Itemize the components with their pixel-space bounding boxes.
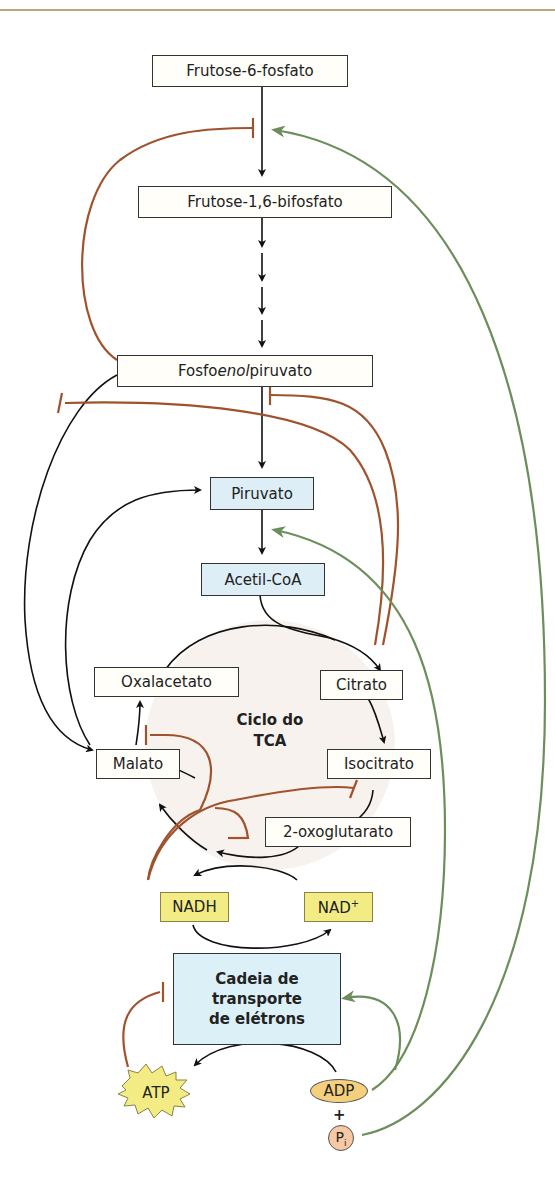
node-frutose-6-fosfato: Frutose-6-fosfato — [152, 55, 348, 87]
node-2-oxoglutarato: 2-oxoglutarato — [265, 817, 411, 847]
node-nad-plus: NAD+ — [304, 892, 373, 922]
node-malato: Malato — [96, 749, 180, 779]
node-adp: ADP — [310, 1079, 368, 1103]
node-pi: Pi — [328, 1125, 354, 1151]
node-label: Oxalacetato — [121, 673, 212, 691]
node-label: NAD+ — [318, 898, 359, 917]
node-isocitrato: Isocitrato — [327, 749, 431, 779]
node-label: Acetil-CoA — [224, 571, 301, 589]
node-atp: ATP — [128, 1078, 184, 1108]
node-cadeia-transporte-eletrons: Cadeia de transporte de elétrons — [173, 953, 341, 1045]
node-label: NADH — [172, 898, 216, 916]
node-fosfoenolpiruvato: Fosfoenolpiruvato — [117, 355, 373, 387]
node-label: Fosfoenolpiruvato — [178, 362, 312, 380]
node-label: Frutose-6-fosfato — [186, 62, 314, 80]
node-label: Malato — [113, 755, 164, 773]
node-label: Isocitrato — [344, 755, 414, 773]
node-acetil-coa: Acetil-CoA — [201, 563, 325, 596]
plus-sign: + — [333, 1106, 346, 1124]
node-label: Citrato — [336, 676, 387, 694]
node-label: 2-oxoglutarato — [283, 823, 393, 841]
node-label: ADP — [324, 1082, 355, 1100]
node-piruvato: Piruvato — [210, 477, 314, 510]
tca-cycle-label: Ciclo do TCA — [220, 710, 320, 752]
node-nadh: NADH — [160, 892, 229, 922]
node-label: Piruvato — [231, 485, 293, 503]
node-label: ATP — [142, 1084, 169, 1102]
node-frutose-1-6-bifosfato: Frutose-1,6-bifosfato — [138, 186, 392, 218]
node-label: Frutose-1,6-bifosfato — [187, 193, 343, 211]
node-citrato: Citrato — [320, 670, 403, 700]
node-label: Pi — [336, 1129, 347, 1148]
node-oxalacetato: Oxalacetato — [94, 667, 239, 697]
